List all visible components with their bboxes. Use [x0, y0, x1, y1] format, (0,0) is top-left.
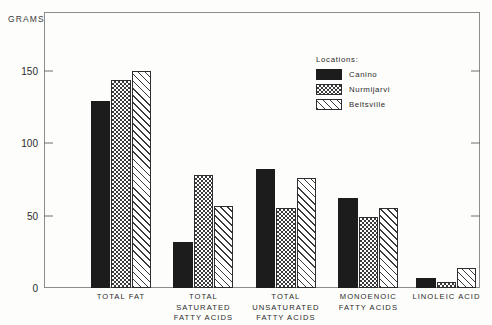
legend-swatch-checkerboard-icon: [316, 84, 342, 95]
y-tick-label: 0: [4, 283, 38, 294]
bar-nurmijarvi[interactable]: [276, 208, 295, 288]
legend-entries: CaninoNurmijarviBeltsville: [316, 68, 424, 110]
bar-group-bars: [91, 13, 151, 288]
x-category-label: LINOLEIC ACID: [403, 292, 490, 303]
bar-beltsville[interactable]: [457, 268, 476, 288]
y-tick-label: 50: [4, 210, 38, 221]
legend-item[interactable]: Beltsville: [316, 98, 424, 110]
legend-label: Nurmijarvi: [349, 85, 390, 94]
legend-label: Canino: [349, 70, 377, 79]
x-category-label: TOTAL SATURATED FATTY ACIDS: [160, 292, 247, 324]
legend-swatch-solid-black-icon: [316, 69, 342, 80]
bar-nurmijarvi[interactable]: [194, 175, 213, 288]
bar-canino[interactable]: [416, 278, 435, 288]
legend: Locations: CaninoNurmijarviBeltsville: [316, 55, 424, 113]
bar-canino[interactable]: [91, 101, 110, 288]
bar-group-bars: [256, 13, 316, 288]
bar-chart: GRAMS 050100150 TOTAL FATTOTAL SATURATED…: [0, 0, 492, 325]
bar-canino[interactable]: [338, 198, 357, 288]
bar-canino[interactable]: [173, 242, 192, 288]
x-axis-category-labels: TOTAL FATTOTAL SATURATED FATTY ACIDSTOTA…: [45, 292, 479, 325]
bar-group: [91, 13, 151, 288]
legend-title: Locations:: [316, 55, 424, 64]
y-tick-label: 150: [4, 65, 38, 76]
bar-beltsville[interactable]: [214, 206, 233, 289]
bar-canino[interactable]: [256, 169, 275, 288]
y-axis-tick-labels: 050100150: [0, 0, 38, 325]
x-category-label: MONOENOIC FATTY ACIDS: [325, 292, 412, 313]
bar-nurmijarvi[interactable]: [437, 282, 456, 288]
bar-nurmijarvi[interactable]: [111, 80, 130, 288]
y-tick-label: 100: [4, 138, 38, 149]
bar-group: [256, 13, 316, 288]
bar-beltsville[interactable]: [132, 71, 151, 288]
bar-nurmijarvi[interactable]: [359, 217, 378, 288]
bar-group: [173, 13, 233, 288]
bar-group: [416, 13, 476, 288]
legend-item[interactable]: Nurmijarvi: [316, 83, 424, 95]
bar-beltsville[interactable]: [297, 178, 316, 288]
bar-beltsville[interactable]: [379, 208, 398, 288]
bar-group-bars: [173, 13, 233, 288]
x-category-label: TOTAL UNSATURATED FATTY ACIDS: [242, 292, 329, 324]
legend-item[interactable]: Canino: [316, 68, 424, 80]
legend-swatch-diagonal-hatch-icon: [316, 99, 342, 110]
x-category-label: TOTAL FAT: [78, 292, 165, 303]
legend-label: Beltsville: [349, 100, 386, 109]
bar-group-bars: [416, 13, 476, 288]
